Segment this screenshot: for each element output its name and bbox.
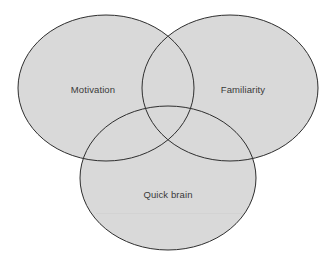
scan-artifact-line bbox=[96, 213, 244, 214]
set-quick-brain-fill bbox=[80, 106, 256, 250]
venn-shapes bbox=[0, 0, 336, 265]
venn-diagram: Motivation Familiarity Quick brain bbox=[0, 0, 336, 265]
label-quick-brain: Quick brain bbox=[143, 189, 192, 200]
label-motivation: Motivation bbox=[71, 84, 115, 95]
label-familiarity: Familiarity bbox=[221, 84, 265, 95]
